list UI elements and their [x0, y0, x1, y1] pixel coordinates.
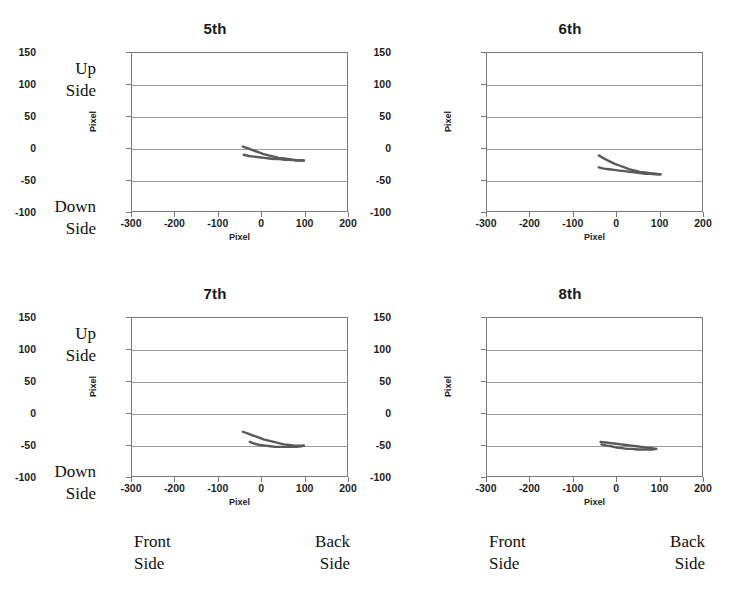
y-tick-label--50: -50: [347, 439, 391, 451]
x-tick-mark--300: [486, 212, 487, 217]
y-tick-mark-0: [126, 148, 131, 149]
annotation-up-side-top: Up Side: [34, 58, 96, 102]
y-tick-mark-50: [481, 116, 486, 117]
y-tick-label--50: -50: [347, 174, 391, 186]
x-tick-mark--300: [131, 212, 132, 217]
x-tick-mark--100: [573, 212, 574, 217]
y-tick-label-100: 100: [0, 78, 36, 90]
plot-area-7th: [131, 317, 348, 477]
chart-title-5th: 5th: [100, 20, 330, 37]
y-tick-label-100: 100: [347, 343, 391, 355]
y-tick-mark-50: [126, 116, 131, 117]
y-axis-label-7th: Pixel: [88, 376, 98, 397]
y-tick-mark-100: [481, 84, 486, 85]
x-tick-mark--100: [218, 477, 219, 482]
y-tick-mark-100: [126, 349, 131, 350]
y-tick-label-0: 0: [347, 142, 391, 154]
y-tick-label-0: 0: [347, 407, 391, 419]
annotation-back-side-left: Back Side: [258, 531, 350, 575]
x-tick-mark-200: [703, 212, 704, 217]
x-tick-mark-100: [305, 477, 306, 482]
annotation-front-side-right: Front Side: [489, 531, 526, 575]
y-axis-label-8th: Pixel: [443, 376, 453, 397]
y-axis-label-6th: Pixel: [443, 111, 453, 132]
y-tick-label-100: 100: [0, 343, 36, 355]
chart-title-8th: 8th: [455, 285, 685, 302]
data-layer-6th: [487, 53, 702, 211]
annotation-down-side-bottom: Down Side: [20, 461, 96, 505]
x-axis-label-6th: Pixel: [486, 232, 703, 242]
y-tick-mark-100: [481, 349, 486, 350]
x-tick-mark-100: [660, 212, 661, 217]
y-tick-mark-150: [481, 52, 486, 53]
annotation-front-side-left: Front Side: [134, 531, 171, 575]
y-tick-label-50: 50: [347, 110, 391, 122]
x-tick-mark--200: [174, 212, 175, 217]
y-tick-label-50: 50: [347, 375, 391, 387]
chart-title-7th: 7th: [100, 285, 330, 302]
x-tick-mark-0: [261, 212, 262, 217]
chart-panel-6th: 6th Pixel Pixel -100-50050100150-300-200…: [385, 18, 715, 288]
annotation-back-side-right: Back Side: [613, 531, 705, 575]
x-tick-label-200: 200: [323, 217, 373, 229]
y-tick-mark--50: [126, 445, 131, 446]
y-tick-label--50: -50: [0, 439, 36, 451]
y-tick-label--50: -50: [0, 174, 36, 186]
x-tick-mark--300: [131, 477, 132, 482]
annotation-up-side-bottom: Up Side: [34, 323, 96, 367]
x-tick-mark--200: [174, 477, 175, 482]
x-tick-mark-100: [660, 477, 661, 482]
y-tick-mark-150: [126, 52, 131, 53]
plot-area-5th: [131, 52, 348, 212]
y-tick-mark--50: [126, 180, 131, 181]
y-axis-label-5th: Pixel: [88, 111, 98, 132]
x-tick-mark-0: [261, 477, 262, 482]
x-tick-mark-0: [616, 477, 617, 482]
y-tick-mark-50: [126, 381, 131, 382]
plot-area-8th: [486, 317, 703, 477]
y-tick-mark-50: [481, 381, 486, 382]
figure-root: 5th Pixel Pixel -100-50050100150-300-200…: [0, 0, 737, 612]
y-tick-label--100: -100: [347, 206, 391, 218]
y-tick-label-150: 150: [347, 46, 391, 58]
y-tick-label-50: 50: [0, 375, 36, 387]
x-tick-label-200: 200: [323, 482, 373, 494]
y-tick-label--100: -100: [347, 471, 391, 483]
y-tick-mark--50: [481, 445, 486, 446]
x-tick-label-200: 200: [678, 217, 728, 229]
data-layer-5th: [132, 53, 347, 211]
data-layer-7th: [132, 318, 347, 476]
x-tick-mark--100: [218, 212, 219, 217]
y-tick-label-50: 50: [0, 110, 36, 122]
data-layer-8th: [487, 318, 702, 476]
y-tick-mark-0: [126, 413, 131, 414]
y-tick-mark-150: [481, 317, 486, 318]
x-axis-label-7th: Pixel: [131, 497, 348, 507]
x-tick-mark-0: [616, 212, 617, 217]
x-tick-mark--200: [529, 212, 530, 217]
y-tick-label-100: 100: [347, 78, 391, 90]
x-axis-label-5th: Pixel: [131, 232, 348, 242]
y-tick-label-150: 150: [347, 311, 391, 323]
plot-area-6th: [486, 52, 703, 212]
x-tick-label-200: 200: [678, 482, 728, 494]
y-tick-label-150: 150: [0, 311, 36, 323]
x-tick-mark--200: [529, 477, 530, 482]
y-tick-mark--50: [481, 180, 486, 181]
x-tick-mark-200: [703, 477, 704, 482]
chart-title-6th: 6th: [455, 20, 685, 37]
annotation-down-side-top: Down Side: [20, 196, 96, 240]
x-axis-label-8th: Pixel: [486, 497, 703, 507]
x-tick-mark--100: [573, 477, 574, 482]
y-tick-mark-0: [481, 148, 486, 149]
y-tick-label-150: 150: [0, 46, 36, 58]
y-tick-label-0: 0: [0, 407, 36, 419]
x-tick-mark--300: [486, 477, 487, 482]
y-tick-label-0: 0: [0, 142, 36, 154]
y-tick-mark-0: [481, 413, 486, 414]
y-tick-mark-100: [126, 84, 131, 85]
y-tick-mark-150: [126, 317, 131, 318]
chart-panel-8th: 8th Pixel Pixel -100-50050100150-300-200…: [385, 283, 715, 553]
x-tick-mark-100: [305, 212, 306, 217]
